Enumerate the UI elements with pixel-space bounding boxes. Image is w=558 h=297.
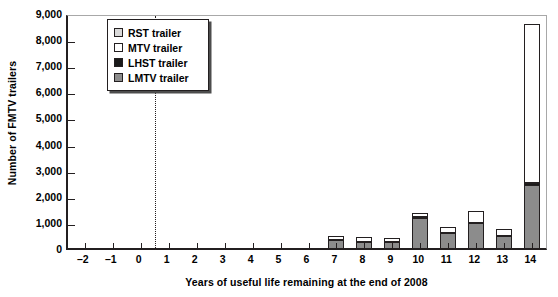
bar-segment[interactable]	[468, 211, 484, 223]
x-tick-label: 7	[319, 252, 349, 266]
bar-segment[interactable]	[524, 185, 540, 249]
x-tick-mark	[392, 243, 393, 248]
y-tick-label: 0	[18, 244, 62, 255]
x-tick-label: 6	[292, 252, 322, 266]
y-tick-label: 3,000	[18, 166, 62, 177]
legend-swatch-mtv	[114, 43, 123, 52]
x-tick-label: 14	[515, 252, 545, 266]
legend-item[interactable]: RST trailer	[114, 25, 202, 40]
x-tick-mark	[504, 243, 505, 248]
x-tick-mark	[336, 243, 337, 248]
x-tick-mark	[364, 243, 365, 248]
x-tick-mark	[532, 243, 533, 248]
x-tick-mark	[309, 243, 310, 248]
y-tick-mark	[68, 120, 75, 121]
x-tick-mark	[476, 243, 477, 248]
legend-swatch-lmtv	[114, 73, 123, 82]
x-tick-label: 1	[152, 252, 182, 266]
legend-item[interactable]: MTV trailer	[114, 40, 202, 55]
y-tick-mark	[68, 147, 75, 148]
x-tick-label: 11	[431, 252, 461, 266]
y-tick-mark	[68, 68, 75, 69]
y-tick-label: 8,000	[18, 35, 62, 46]
y-tick-mark	[68, 199, 75, 200]
legend-swatch-lhst	[114, 58, 123, 67]
bar-segment[interactable]	[524, 24, 540, 183]
x-tick-label: –2	[68, 252, 98, 266]
x-tick-label: 3	[208, 252, 238, 266]
y-tick-label: 4,000	[18, 140, 62, 151]
x-tick-label: 9	[375, 252, 405, 266]
x-axis-title: Years of useful life remaining at the en…	[66, 276, 547, 288]
legend-swatch-rst	[114, 28, 123, 37]
x-tick-mark	[420, 243, 421, 248]
y-tick-label: 2,000	[18, 192, 62, 203]
x-tick-label: 13	[487, 252, 517, 266]
x-tick-mark	[225, 243, 226, 248]
y-tick-mark	[68, 42, 75, 43]
y-tick-label: 5,000	[18, 113, 62, 124]
x-tick-label: 10	[403, 252, 433, 266]
x-tick-label: 8	[347, 252, 377, 266]
x-tick-mark	[113, 243, 114, 248]
bar-column[interactable]	[524, 22, 540, 248]
x-tick-label: 12	[459, 252, 489, 266]
y-tick-label: 7,000	[18, 61, 62, 72]
y-tick-mark	[68, 94, 75, 95]
x-tick-label: –1	[96, 252, 126, 266]
y-tick-label: 9,000	[18, 9, 62, 20]
legend-item-label: LHST trailer	[128, 57, 188, 69]
x-tick-mark	[448, 243, 449, 248]
y-tick-mark	[68, 173, 75, 174]
x-tick-label: 2	[180, 252, 210, 266]
x-tick-mark	[169, 243, 170, 248]
chart-legend: RST trailerMTV trailerLHST trailerLMTV t…	[107, 19, 209, 91]
y-axis-tick-labels: 01,0002,0003,0004,0005,0006,0007,0008,00…	[14, 0, 62, 297]
x-tick-mark	[281, 243, 282, 248]
legend-item-label: MTV trailer	[128, 42, 182, 54]
x-tick-label: 0	[124, 252, 154, 266]
legend-item-label: RST trailer	[128, 27, 181, 39]
x-tick-mark	[197, 243, 198, 248]
legend-item-label: LMTV trailer	[128, 72, 189, 84]
x-tick-label: 4	[236, 252, 266, 266]
legend-item[interactable]: LHST trailer	[114, 55, 202, 70]
chart-figure: Number of FMTV trailers 01,0002,0003,000…	[0, 0, 558, 297]
legend-item[interactable]: LMTV trailer	[114, 70, 202, 85]
x-tick-mark	[85, 243, 86, 248]
x-tick-mark	[253, 243, 254, 248]
x-axis-tick-labels: –2–101234567891011121314	[66, 252, 547, 268]
y-tick-label: 1,000	[18, 218, 62, 229]
x-tick-label: 5	[264, 252, 294, 266]
y-tick-label: 6,000	[18, 87, 62, 98]
x-tick-mark	[141, 243, 142, 248]
y-tick-mark	[68, 225, 75, 226]
